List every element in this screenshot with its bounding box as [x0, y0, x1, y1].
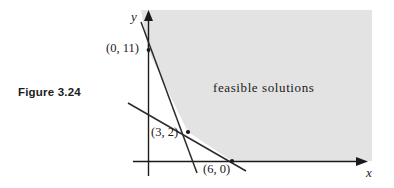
point-marker-0-11 [147, 48, 151, 52]
x-axis-label: x [366, 165, 372, 181]
point-marker-3-2 [186, 130, 190, 134]
point-label-6-0: (6, 0) [203, 162, 230, 177]
figure-container: Figure 3.24 (0, 11) (3, 2) (6, 0) feasib… [0, 0, 394, 188]
y-axis-label: y [131, 9, 137, 25]
point-marker-6-0 [230, 159, 234, 163]
feasible-region-label: feasible solutions [213, 80, 314, 96]
point-label-0-11: (0, 11) [106, 41, 139, 56]
point-label-3-2: (3, 2) [151, 125, 178, 140]
plot-area [0, 0, 394, 188]
